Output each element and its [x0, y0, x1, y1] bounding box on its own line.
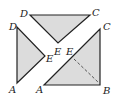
- label-br-c: C: [103, 21, 111, 32]
- label-left-a: A: [8, 84, 16, 95]
- label-br-e: E: [65, 46, 74, 57]
- diagram-canvas: D C E D E A E C A B: [0, 0, 117, 95]
- label-br-b: B: [102, 85, 110, 95]
- label-top-d: D: [19, 8, 28, 19]
- left-triangle-dae: [17, 27, 45, 83]
- label-br-a: A: [35, 84, 43, 95]
- geometry-diagram: D C E D E A E C A B: [0, 0, 117, 95]
- label-left-e: E: [45, 53, 54, 64]
- label-top-e: E: [53, 46, 62, 57]
- label-left-d: D: [8, 21, 17, 32]
- top-triangle-dec: [30, 15, 90, 43]
- label-top-c: C: [92, 7, 100, 18]
